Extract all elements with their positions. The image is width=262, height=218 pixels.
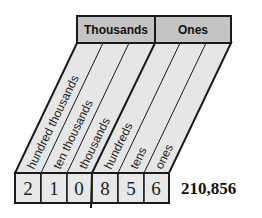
digit-hundred-thousands: 2 bbox=[23, 178, 33, 199]
digit-tens: 5 bbox=[126, 178, 136, 199]
digit-ten-thousands: 1 bbox=[49, 178, 59, 199]
period-label-thousands: Thousands bbox=[84, 23, 148, 37]
standard-form-number: 210,856 bbox=[181, 179, 236, 198]
period-label-ones: Ones bbox=[178, 23, 208, 37]
period-separator-mark bbox=[91, 173, 92, 208]
digit-hundreds: 8 bbox=[100, 178, 110, 199]
place-value-chart: Thousands Ones hundred thousands ten tho… bbox=[0, 0, 262, 218]
digit-thousands: 0 bbox=[74, 178, 84, 199]
digit-ones: 6 bbox=[151, 178, 161, 199]
